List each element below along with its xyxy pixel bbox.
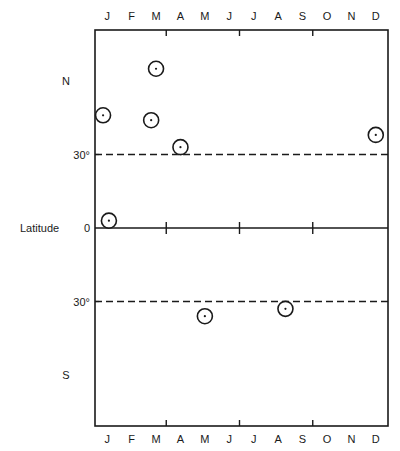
dot-icon	[108, 220, 110, 222]
month-label-top: F	[128, 10, 135, 22]
month-label-bottom: J	[227, 433, 233, 445]
month-label-bottom: J	[104, 433, 110, 445]
month-label-bottom: S	[299, 433, 306, 445]
month-label-top: A	[274, 10, 282, 22]
reference-lines	[95, 155, 388, 302]
latitude-chart: JFMAMJJASOND JFMAMJJASOND N30°030°S Lati…	[0, 0, 400, 451]
dot-icon	[284, 308, 286, 310]
latitude-label: 0	[84, 222, 90, 234]
data-point	[278, 301, 293, 316]
dot-icon	[375, 134, 377, 136]
month-label-bottom: J	[251, 433, 257, 445]
bottom-month-labels: JFMAMJJASOND	[104, 433, 379, 445]
dot-icon	[179, 146, 181, 148]
month-label-top: N	[347, 10, 355, 22]
month-label-bottom: O	[323, 433, 332, 445]
data-point	[197, 309, 212, 324]
data-point	[173, 140, 188, 155]
latitude-label: 30°	[73, 149, 90, 161]
month-label-bottom: N	[347, 433, 355, 445]
month-label-top: D	[372, 10, 380, 22]
month-label-bottom: M	[151, 433, 160, 445]
top-month-labels: JFMAMJJASOND	[104, 10, 379, 22]
data-points	[96, 61, 384, 323]
latitude-labels: N30°030°S	[62, 75, 99, 381]
month-label-top: S	[299, 10, 306, 22]
latitude-label: 30°	[73, 296, 90, 308]
month-label-bottom: M	[200, 433, 209, 445]
y-axis-title: Latitude	[20, 222, 59, 234]
month-label-top: A	[177, 10, 185, 22]
month-label-bottom: A	[177, 433, 185, 445]
dot-icon	[155, 68, 157, 70]
data-point	[144, 113, 159, 128]
dot-icon	[150, 119, 152, 121]
month-label-top: M	[151, 10, 160, 22]
data-point	[368, 127, 383, 142]
month-label-top: J	[104, 10, 110, 22]
latitude-label: N	[62, 75, 70, 87]
month-label-top: O	[323, 10, 332, 22]
month-label-bottom: F	[128, 433, 135, 445]
data-point	[96, 108, 111, 123]
dot-icon	[102, 114, 104, 116]
month-label-top: J	[227, 10, 233, 22]
data-point	[149, 61, 164, 76]
month-label-top: M	[200, 10, 209, 22]
month-label-bottom: A	[274, 433, 282, 445]
dot-icon	[204, 315, 206, 317]
month-label-bottom: D	[372, 433, 380, 445]
latitude-label: S	[62, 369, 69, 381]
month-label-top: J	[251, 10, 257, 22]
data-point	[101, 213, 116, 228]
